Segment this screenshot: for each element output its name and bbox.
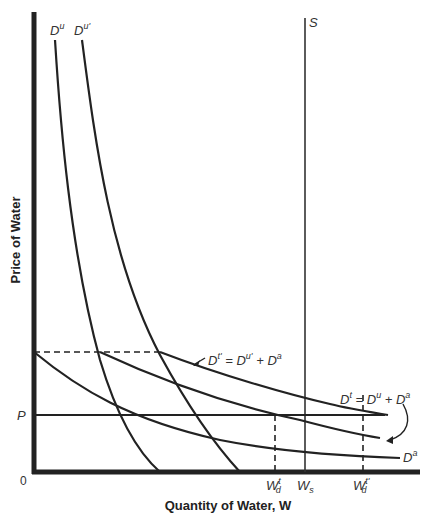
y-axis-title: Price of Water bbox=[8, 197, 23, 284]
label-du: Du bbox=[50, 21, 64, 38]
label-wdtp: Wt'd bbox=[353, 476, 370, 495]
arrow-da-head bbox=[386, 436, 393, 444]
label-dup: Du' bbox=[74, 21, 90, 38]
label-dt: Dt = Du + Da bbox=[340, 390, 410, 407]
label-dtp: Dt' = Du' + Da bbox=[208, 351, 282, 368]
curve-dup bbox=[82, 40, 240, 472]
label-wdt: Wtd bbox=[266, 476, 282, 495]
label-p: P bbox=[17, 408, 26, 423]
label-da: Da bbox=[403, 448, 417, 465]
label-origin: 0 bbox=[20, 474, 27, 488]
label-s: S bbox=[309, 15, 318, 30]
curve-du bbox=[55, 40, 160, 472]
demand-supply-chart: Du Du' S Dt' = Du' + Da Dt = Du + Da Da … bbox=[0, 0, 430, 515]
label-ws: Ws bbox=[297, 478, 314, 495]
x-axis-title: Quantity of Water, W bbox=[165, 498, 292, 513]
arrow-da bbox=[390, 404, 408, 440]
